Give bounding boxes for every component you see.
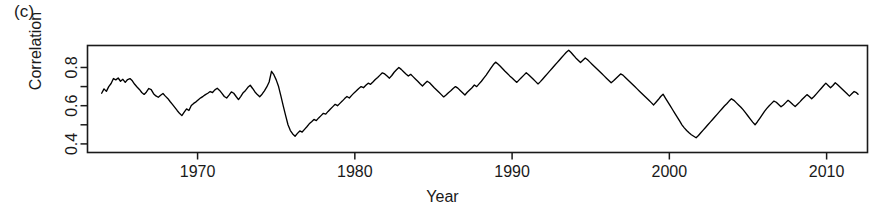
y-tick-label: 0.6 (63, 94, 80, 116)
y-axis-ticks (81, 67, 88, 143)
plot-frame (88, 46, 868, 153)
correlation-time-series-figure: (c) Correlation 0.40.60.8 19701980199020… (0, 0, 885, 216)
x-tick-label: 1980 (337, 163, 373, 180)
y-tick-label: 0.8 (63, 56, 80, 78)
x-axis-ticks (198, 153, 827, 160)
plot-area: 0.40.60.8 19701980199020002010 (0, 0, 885, 216)
x-tick-label: 2000 (652, 163, 688, 180)
x-tick-label: 2010 (809, 163, 845, 180)
y-axis-tick-labels: 0.40.60.8 (63, 56, 80, 155)
x-axis-label: Year (0, 188, 885, 206)
x-tick-label: 1990 (494, 163, 530, 180)
axis-frame (88, 46, 868, 153)
y-tick-label: 0.4 (63, 133, 80, 155)
correlation-line (102, 50, 858, 138)
x-axis-tick-labels: 19701980199020002010 (180, 163, 845, 180)
x-tick-label: 1970 (180, 163, 216, 180)
